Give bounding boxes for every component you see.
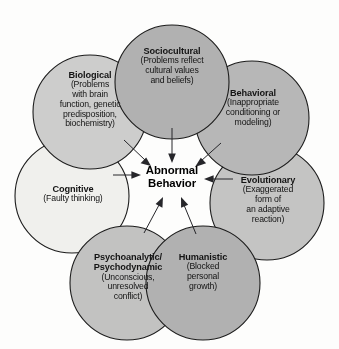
circle-sociocultural[interactable]: [115, 25, 229, 139]
circle-humanistic[interactable]: [146, 226, 260, 340]
abnormal-behavior-venn-diagram: Sociocultural (Problems reflect cultural…: [0, 0, 339, 349]
center-label-abnormal-behavior: Abnormal Behavior: [122, 164, 222, 190]
center-label-line-2: Behavior: [122, 177, 222, 190]
center-label-line-1: Abnormal: [122, 164, 222, 177]
arrow-from-psychoanalytic: [144, 197, 163, 233]
